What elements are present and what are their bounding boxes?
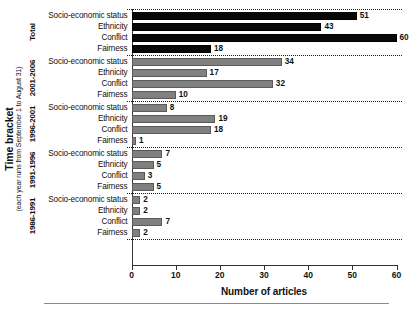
group-separator-line bbox=[127, 239, 402, 240]
group-label-1986-1991: 1986-1991 bbox=[24, 193, 40, 239]
group-separator-line bbox=[127, 55, 402, 56]
group-label-2001-2006: 2001-2006 bbox=[24, 55, 40, 101]
group-separator-line bbox=[127, 9, 402, 10]
bar-value-label: 2 bbox=[143, 207, 148, 215]
group-separator-line bbox=[127, 101, 402, 102]
bar bbox=[132, 172, 145, 180]
bar-value-label: 60 bbox=[400, 34, 409, 42]
x-axis-tick-label: 10 bbox=[171, 271, 180, 280]
category-label: Socio-economic status bbox=[48, 196, 127, 204]
bar-value-label: 34 bbox=[285, 58, 294, 66]
bar-value-label: 17 bbox=[210, 69, 219, 77]
bar bbox=[132, 45, 212, 53]
bar bbox=[132, 218, 163, 226]
footer-divider-rule bbox=[44, 303, 389, 304]
bar bbox=[132, 229, 141, 237]
bar bbox=[132, 80, 273, 88]
category-label: Socio-economic status bbox=[48, 12, 127, 20]
plot-area: Number of articles Socio-economic status… bbox=[40, 0, 420, 285]
category-label: Ethnicity bbox=[98, 207, 128, 215]
group-label-text: 1991-1996 bbox=[28, 152, 37, 188]
group-label-text: Total bbox=[28, 23, 37, 41]
category-label: Conflict bbox=[101, 218, 127, 226]
x-axis-tick-label: 20 bbox=[215, 271, 224, 280]
group-separator-line bbox=[127, 193, 402, 194]
bar-value-label: 2 bbox=[143, 196, 148, 204]
bar-value-label: 5 bbox=[157, 183, 162, 191]
group-label-1996-2001: 1996-2001 bbox=[24, 101, 40, 147]
bar bbox=[132, 196, 141, 204]
bar bbox=[132, 137, 136, 145]
bar-value-label: 43 bbox=[324, 23, 333, 31]
category-label: Conflict bbox=[101, 126, 127, 134]
bar-value-label: 32 bbox=[276, 80, 285, 88]
category-label: Fairness bbox=[97, 137, 127, 145]
category-label: Fairness bbox=[97, 229, 127, 237]
bar-value-label: 2 bbox=[143, 229, 148, 237]
x-axis-tick-label: 50 bbox=[348, 271, 357, 280]
group-separator-line bbox=[127, 147, 402, 148]
bar bbox=[132, 183, 154, 191]
group-label-text: 2001-2006 bbox=[28, 60, 37, 96]
bar bbox=[132, 69, 207, 77]
bar bbox=[132, 115, 216, 123]
x-axis-tick-label: 0 bbox=[129, 271, 134, 280]
bar-value-label: 18 bbox=[214, 126, 223, 134]
bar bbox=[132, 91, 176, 99]
bar-value-label: 8 bbox=[170, 104, 175, 112]
bar-value-label: 5 bbox=[157, 161, 162, 169]
category-label: Fairness bbox=[97, 45, 127, 53]
bar bbox=[132, 104, 167, 112]
category-label: Socio-economic status bbox=[48, 104, 127, 112]
bar-value-label: 3 bbox=[148, 172, 153, 180]
category-label: Conflict bbox=[101, 80, 127, 88]
bar-value-label: 51 bbox=[360, 12, 369, 20]
category-label: Conflict bbox=[101, 172, 127, 180]
bar bbox=[132, 12, 357, 20]
y-axis-title-subtitle: (each year runs from September 1 to Augu… bbox=[15, 66, 22, 211]
bar-value-label: 10 bbox=[179, 91, 188, 99]
bar-chart-figure: Time bracket (each year runs from Septem… bbox=[0, 0, 420, 311]
bar bbox=[132, 58, 282, 66]
bar-value-label: 7 bbox=[165, 218, 170, 226]
bar-value-label: 19 bbox=[218, 115, 227, 123]
bar-value-label: 1 bbox=[139, 137, 144, 145]
bar bbox=[132, 207, 141, 215]
category-label: Fairness bbox=[97, 91, 127, 99]
bar bbox=[132, 23, 322, 31]
category-label: Ethnicity bbox=[98, 161, 128, 169]
group-label-Total: Total bbox=[24, 9, 40, 55]
bar-value-label: 7 bbox=[165, 150, 170, 158]
category-label: Ethnicity bbox=[98, 115, 128, 123]
category-label: Socio-economic status bbox=[48, 150, 127, 158]
bar-value-label: 18 bbox=[214, 45, 223, 53]
bar bbox=[132, 34, 397, 42]
y-axis-title-main: Time bracket bbox=[4, 66, 15, 211]
category-label: Ethnicity bbox=[98, 23, 128, 31]
x-axis-tick-label: 60 bbox=[392, 271, 401, 280]
category-label: Fairness bbox=[97, 183, 127, 191]
x-axis-tick-label: 30 bbox=[259, 271, 268, 280]
x-axis-tick-label: 40 bbox=[303, 271, 312, 280]
group-label-1991-1996: 1991-1996 bbox=[24, 147, 40, 193]
bar bbox=[132, 161, 154, 169]
category-label: Socio-economic status bbox=[48, 58, 127, 66]
y-axis-title: Time bracket (each year runs from Septem… bbox=[0, 0, 26, 278]
group-label-text: 1996-2001 bbox=[28, 106, 37, 142]
category-label: Ethnicity bbox=[98, 69, 128, 77]
bar bbox=[132, 150, 163, 158]
group-label-text: 1986-1991 bbox=[28, 198, 37, 234]
x-axis-title: Number of articles bbox=[131, 286, 397, 297]
category-label: Conflict bbox=[101, 34, 127, 42]
bar bbox=[132, 126, 212, 134]
